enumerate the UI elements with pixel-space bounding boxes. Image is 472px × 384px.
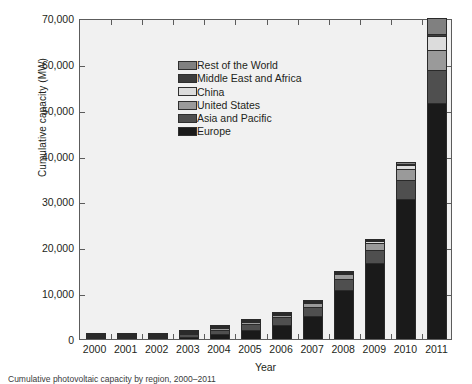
bar-segment[interactable] <box>334 279 354 290</box>
x-tick-label: 2008 <box>328 344 359 355</box>
x-tick-label: 2002 <box>141 344 172 355</box>
bar-segment[interactable] <box>272 317 292 325</box>
legend-item[interactable]: Middle East and Africa <box>178 73 301 84</box>
x-axis-label: Year <box>79 361 452 373</box>
bar-segment[interactable] <box>148 338 168 339</box>
bar-segment[interactable] <box>210 334 230 339</box>
legend-label: Europe <box>197 126 231 137</box>
y-tick-label: 30,000 <box>20 197 74 208</box>
bar-stack[interactable] <box>179 330 199 339</box>
legend-swatch <box>178 101 197 110</box>
legend-label: Middle East and Africa <box>197 73 301 84</box>
bar-stack[interactable] <box>396 162 416 339</box>
y-axis-tick-labels: 010,00020,00030,00040,00050,00060,00070,… <box>20 0 74 384</box>
bar-stack[interactable] <box>303 300 323 339</box>
bar-segment[interactable] <box>334 290 354 339</box>
x-tick-label: 2010 <box>390 344 421 355</box>
bar-segment[interactable] <box>427 18 447 34</box>
legend-swatch <box>178 61 197 70</box>
bar-segment[interactable] <box>303 307 323 316</box>
bar-segment[interactable] <box>86 338 106 339</box>
y-tick-label: 60,000 <box>20 60 74 71</box>
legend-item[interactable]: Rest of the World <box>178 60 301 71</box>
figure-caption: Cumulative photovoltaic capacity by regi… <box>8 374 470 384</box>
legend-item[interactable]: China <box>178 86 301 97</box>
bar-segment[interactable] <box>427 36 447 50</box>
figure: Cumulative capacity (MW) 010,00020,00030… <box>0 0 472 384</box>
legend-swatch <box>178 87 197 96</box>
bar-segment[interactable] <box>427 103 447 339</box>
legend-label: Asia and Pacific <box>197 113 272 124</box>
bar-segment[interactable] <box>365 250 385 263</box>
y-tick-label: 20,000 <box>20 243 74 254</box>
x-axis-tick-labels: 2000200120022003200420052006200720082009… <box>79 344 452 360</box>
x-tick-label: 2011 <box>421 344 452 355</box>
y-tick-label: 10,000 <box>20 289 74 300</box>
bar-stack[interactable] <box>86 336 106 339</box>
bar-segment[interactable] <box>396 199 416 339</box>
bar-stack[interactable] <box>365 239 385 339</box>
bar-segment[interactable] <box>365 243 385 250</box>
y-tick-label: 70,000 <box>20 14 74 25</box>
bar-segment[interactable] <box>179 337 199 339</box>
y-tick-label: 0 <box>20 335 74 346</box>
bar-stack[interactable] <box>210 325 230 339</box>
legend-label: United States <box>197 100 260 111</box>
bar-stack[interactable] <box>117 334 137 339</box>
bar-segment[interactable] <box>365 263 385 339</box>
bar-stack[interactable] <box>427 18 447 339</box>
x-tick-label: 2005 <box>234 344 265 355</box>
x-tick-label: 2004 <box>203 344 234 355</box>
bar-stack[interactable] <box>334 271 354 339</box>
legend-swatch <box>178 74 197 83</box>
legend-label: China <box>197 87 224 98</box>
plot-area: Rest of the WorldMiddle East and AfricaC… <box>79 19 452 340</box>
legend-item[interactable]: Europe <box>178 126 301 137</box>
bar-segment[interactable] <box>303 316 323 339</box>
bar-stack[interactable] <box>272 312 292 339</box>
bar-segment[interactable] <box>272 325 292 339</box>
y-tick-label: 40,000 <box>20 152 74 163</box>
legend-item[interactable]: Asia and Pacific <box>178 113 301 124</box>
x-tick-label: 2006 <box>266 344 297 355</box>
bar-segment[interactable] <box>396 169 416 181</box>
legend-label: Rest of the World <box>197 60 278 71</box>
legend: Rest of the WorldMiddle East and AfricaC… <box>178 60 301 137</box>
bar-segment[interactable] <box>427 70 447 103</box>
y-tick-label: 50,000 <box>20 106 74 117</box>
x-tick-label: 2000 <box>79 344 110 355</box>
bar-stack[interactable] <box>148 333 168 339</box>
bar-segment[interactable] <box>427 50 447 70</box>
x-tick-label: 2007 <box>297 344 328 355</box>
bar-segment[interactable] <box>117 338 137 339</box>
x-tick-label: 2009 <box>359 344 390 355</box>
bar-stack[interactable] <box>241 319 261 339</box>
legend-swatch <box>178 127 197 136</box>
legend-swatch <box>178 114 197 123</box>
bar-segment[interactable] <box>396 180 416 199</box>
legend-item[interactable]: United States <box>178 100 301 111</box>
bar-segment[interactable] <box>241 330 261 339</box>
x-tick-label: 2001 <box>110 344 141 355</box>
x-tick-label: 2003 <box>172 344 203 355</box>
